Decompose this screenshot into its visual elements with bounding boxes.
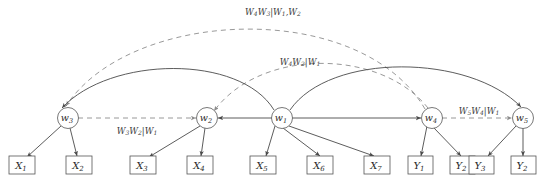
observed-node-Y4[interactable]: Y2 (511, 156, 536, 174)
solid-edge-w5-to-Y3 (488, 126, 516, 156)
latent-node-w2-base: w (200, 112, 208, 123)
latent-node-w2-sub: 2 (207, 116, 212, 124)
latent-node-w3-sub: 3 (69, 116, 73, 124)
observed-node-Y3-sub: 3 (481, 165, 486, 173)
solid-edge-w2-to-X4 (201, 128, 205, 156)
observed-node-Y1[interactable]: Y1 (408, 156, 433, 174)
latent-node-w2[interactable]: w2 (197, 108, 218, 129)
edge-label-w5w4-given-w1: W5W4|W1 (459, 106, 500, 117)
observed-node-Y3[interactable]: Y3 (469, 156, 494, 174)
solid-edge-w1-to-X6 (283, 128, 320, 156)
observed-node-X5[interactable]: X5 (250, 156, 276, 174)
observed-node-group: X1 X2 X3 X4 X5 X6 X7 Y1 (9, 156, 536, 174)
edge-label-w3w2-given-w1: W3W2|W1 (117, 126, 158, 137)
solid-edge-w3-to-X2 (70, 128, 77, 156)
solid-edge-w4-to-Y1 (421, 126, 427, 156)
observed-node-Y1-sub: 1 (420, 165, 424, 173)
solid-edge-w1-to-X5 (266, 126, 275, 156)
latent-node-w1-sub: 1 (283, 116, 287, 124)
observed-node-X3[interactable]: X3 (130, 156, 156, 174)
observed-node-X3-sub: 3 (143, 165, 148, 173)
latent-node-w3[interactable]: w3 (58, 108, 79, 129)
observed-node-X7-sub: 7 (377, 165, 382, 173)
observed-node-X2-sub: 2 (78, 165, 84, 173)
latent-node-w4-base: w (425, 112, 433, 123)
latent-node-w4-sub: 4 (432, 116, 437, 124)
path-diagram: w3 w2 w1 w4 w5 X1 X2 X3 (0, 0, 546, 181)
solid-edge-w1-to-w3 (62, 69, 274, 111)
latent-node-w5-sub: 5 (524, 116, 528, 124)
dashed-edge-group (66, 29, 512, 118)
dashed-edge-w4-to-w2 (214, 63, 428, 111)
observed-node-X4[interactable]: X4 (187, 156, 213, 174)
latent-node-w4[interactable]: w4 (422, 108, 443, 129)
observed-node-X6-sub: 6 (320, 165, 325, 173)
latent-node-w1-base: w (275, 112, 283, 123)
solid-edge-w1-to-X7 (289, 126, 374, 156)
latent-node-w5-base: w (516, 112, 524, 123)
latent-node-w1[interactable]: w1 (272, 108, 293, 129)
latent-node-w5[interactable]: w5 (513, 108, 534, 129)
latent-node-w3-base: w (61, 112, 69, 123)
edge-label-w4w3-given-w1w2: W4W3|W1,W2 (245, 7, 301, 18)
solid-edge-w1-to-w5 (290, 67, 521, 110)
observed-node-X5-sub: 5 (263, 165, 268, 173)
solid-edge-w3-to-X1 (27, 126, 61, 157)
observed-node-X6[interactable]: X6 (307, 156, 333, 174)
observed-node-X7[interactable]: X7 (364, 156, 390, 174)
edge-label-w4w2-given-w1: W4W2|W1 (280, 57, 321, 68)
observed-node-Y2-sub: 2 (461, 165, 467, 173)
observed-node-X1-sub: 1 (22, 165, 26, 173)
observed-node-X2[interactable]: X2 (66, 156, 92, 174)
solid-edge-w4-to-Y2 (434, 128, 461, 156)
observed-node-X4-sub: 4 (199, 165, 204, 173)
observed-node-X1[interactable]: X1 (9, 156, 35, 174)
observed-node-Y4-sub: 2 (522, 165, 528, 173)
